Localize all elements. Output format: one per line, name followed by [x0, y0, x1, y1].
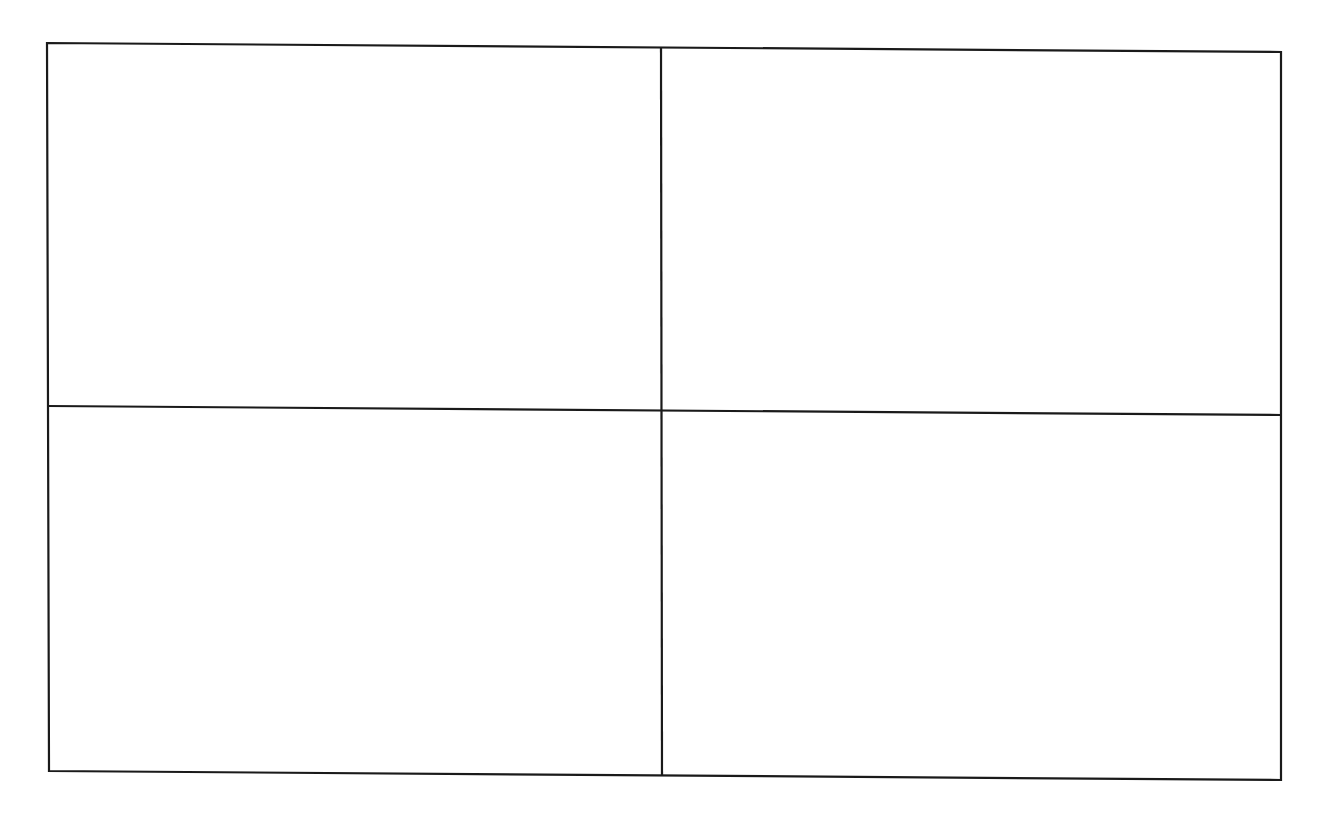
grid-diagram: [0, 0, 1318, 833]
horizontal-divider: [48, 406, 1281, 415]
vertical-divider: [661, 47, 662, 775]
grid-lines: [0, 0, 1318, 833]
